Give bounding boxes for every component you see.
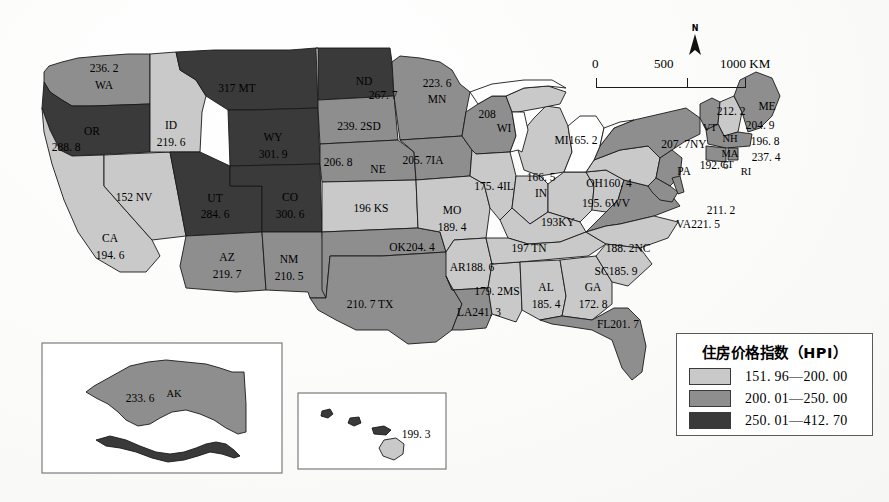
label-HI-value: 199. 3	[402, 428, 431, 440]
label-CO-code: CO	[282, 191, 298, 203]
label-IN-code: IN	[535, 187, 548, 199]
scale-bar-line	[596, 78, 746, 88]
label-OR-code: OR	[84, 125, 100, 137]
label-UT-code: UT	[207, 192, 222, 204]
legend-swatch-class2	[689, 390, 731, 407]
legend-row-class2: 200. 01—250. 00	[689, 390, 872, 407]
label-SC: SC185. 9	[595, 265, 638, 277]
label-NV: 152 NV	[116, 191, 153, 203]
scale-bar: 0 500 1000 KM	[592, 56, 782, 92]
label-AZ-code: AZ	[219, 251, 234, 263]
legend-label-class3: 250. 01—412. 70	[745, 413, 848, 429]
label-UT-value: 284. 6	[201, 208, 230, 220]
label-AL-value: 185. 4	[532, 298, 561, 310]
label-AK-value: 233. 6	[126, 392, 155, 404]
label-LA: LA241. 3	[457, 306, 501, 318]
label-MO-value: 189. 4	[438, 221, 467, 233]
label-MA-code: MA	[722, 148, 739, 159]
label-WV: 195. 6WV	[582, 197, 631, 209]
label-PA-code: PA	[677, 165, 691, 177]
label-IA: 205. 7IA	[403, 154, 445, 166]
legend-swatch-class3	[689, 412, 731, 429]
scale-label-max: 1000 KM	[720, 56, 770, 72]
label-WY-value: 301. 9	[259, 148, 288, 160]
label-SD: 239. 2SD	[337, 120, 380, 132]
label-CT-code: CT	[720, 159, 734, 170]
label-CA-value: 194. 6	[96, 249, 125, 261]
label-OH: OH160. 4	[586, 177, 632, 189]
label-AR: AR188. 6	[450, 261, 495, 273]
label-IN-value: 166. 5	[527, 171, 556, 183]
label-NC: 188. 2NC	[606, 242, 651, 254]
label-NE-code: NE	[370, 163, 385, 175]
north-arrow-letter: N	[684, 24, 706, 33]
legend-row-class1: 151. 96—200. 00	[689, 368, 872, 385]
label-AK-code: AK	[166, 388, 182, 399]
legend-label-class1: 151. 96—200. 00	[745, 369, 848, 385]
scale-bar-labels: 0 500 1000 KM	[592, 56, 782, 71]
label-ID-value: 219. 6	[157, 136, 186, 148]
label-WA-value: 236. 2	[90, 62, 119, 74]
label-MT: 317 MT	[218, 82, 255, 94]
legend-row-class3: 250. 01—412. 70	[689, 412, 872, 429]
label-ME-code: ME	[758, 100, 775, 112]
label-TX: 210. 7 TX	[347, 298, 394, 310]
label-ME-value: 204. 9	[746, 119, 775, 131]
label-NE-value: 206. 8	[324, 156, 353, 168]
label-OR-value: 288. 8	[52, 141, 81, 153]
label-NY: 207. 7NY	[661, 138, 707, 150]
label-WA-code: WA	[95, 79, 114, 91]
north-arrow: N	[684, 24, 706, 58]
label-MA-value: 237. 4	[752, 151, 781, 163]
label-KS: 196 KS	[354, 202, 389, 214]
label-VT-value: 212. 2	[717, 105, 746, 117]
label-ND-code: ND	[356, 75, 373, 87]
label-NH-value: 196. 8	[751, 135, 780, 147]
label-MD: 211. 2	[707, 204, 736, 216]
legend-title: 住房价格指数（HPI）	[677, 341, 872, 362]
label-WY-code: WY	[263, 131, 283, 143]
label-AL-code: AL	[538, 281, 553, 293]
label-AZ-value: 219. 7	[213, 268, 242, 280]
map-legend: 住房价格指数（HPI） 151. 96—200. 00 200. 01—250.…	[676, 333, 873, 436]
label-MI: MI165. 2	[555, 134, 598, 146]
legend-label-class2: 200. 01—250. 00	[745, 391, 848, 407]
label-NH-code: NH	[722, 133, 738, 144]
label-TN: 197 TN	[511, 242, 547, 254]
label-IL: 175. 4IL	[474, 180, 514, 192]
label-MN-code: MN	[428, 93, 447, 105]
label-NM-value: 210. 5	[275, 270, 304, 282]
label-MO-code: MO	[443, 204, 462, 216]
label-MN-value: 223. 6	[423, 77, 452, 89]
scale-label-zero: 0	[592, 56, 599, 72]
label-NM-code: NM	[280, 253, 299, 265]
north-arrow-glyph	[684, 33, 706, 58]
label-ID-code: ID	[165, 119, 177, 131]
label-WI-value: 208	[478, 108, 496, 120]
label-CA-code: CA	[102, 232, 119, 244]
legend-swatch-class1	[689, 368, 731, 385]
label-ND-value: 267. 7	[369, 89, 398, 101]
state-NM[interactable]	[262, 232, 326, 298]
label-VA: VA221. 5	[676, 218, 720, 230]
label-RI-code: RI	[741, 166, 752, 177]
label-GA-value: 172. 8	[579, 298, 608, 310]
label-VT-code: VT	[703, 122, 718, 133]
label-KY: 193KY	[541, 216, 576, 228]
label-OK: OK204. 4	[389, 241, 435, 253]
label-MS: 179. 2MS	[474, 285, 519, 297]
label-FL: FL201. 7	[597, 318, 639, 330]
scale-label-mid: 500	[654, 56, 674, 72]
label-WI-code: WI	[497, 122, 512, 134]
label-CO-value: 300. 6	[276, 208, 305, 220]
scale-bar-midtick	[687, 78, 688, 87]
label-GA-code: GA	[585, 281, 602, 293]
